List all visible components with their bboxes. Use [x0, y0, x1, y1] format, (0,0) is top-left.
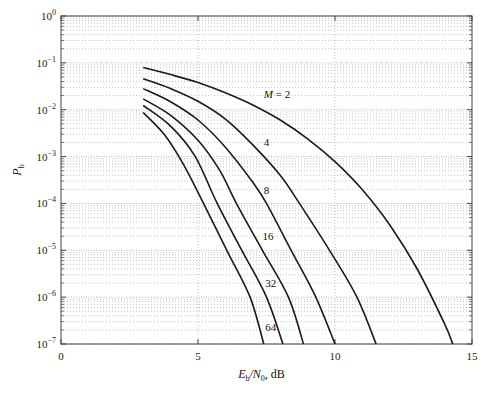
y-tick-label: 10−4 [36, 195, 56, 209]
curve-label: 16 [262, 230, 274, 242]
y-tick-label: 10−2 [36, 102, 56, 116]
curve-label: M = 2 [263, 88, 290, 100]
axis-ticks [61, 16, 472, 344]
plot-area [61, 16, 472, 344]
y-tick-label: 100 [41, 8, 56, 22]
curve-label: 4 [264, 136, 270, 148]
y-tick-label: 10−1 [36, 55, 56, 69]
ber-chart: M = 248163264 051015 10010−110−210−310−4… [0, 0, 493, 393]
y-tick-label: 10−7 [36, 336, 56, 350]
y-tick-label: 10−6 [36, 289, 56, 303]
x-tick-label: 0 [58, 350, 64, 362]
x-tick-label: 10 [330, 350, 342, 362]
x-tick-label: 5 [195, 350, 201, 362]
x-axis-label: Eb/N0, dB [237, 367, 285, 383]
curve-m16 [143, 99, 303, 344]
x-axis-tick-labels: 051015 [58, 350, 478, 362]
curve-label: 32 [265, 277, 276, 289]
curve-label: 8 [264, 184, 270, 196]
y-tick-label: 10−3 [36, 149, 56, 163]
x-tick-label: 15 [467, 350, 479, 362]
y-axis-label: Pb [10, 164, 26, 176]
y-tick-label: 10−5 [36, 242, 56, 256]
curve-label: 64 [265, 321, 277, 333]
grid-lines [61, 16, 472, 344]
y-axis-tick-labels: 10010−110−210−310−410−510−610−7 [36, 8, 56, 350]
curve-m32 [143, 106, 283, 345]
